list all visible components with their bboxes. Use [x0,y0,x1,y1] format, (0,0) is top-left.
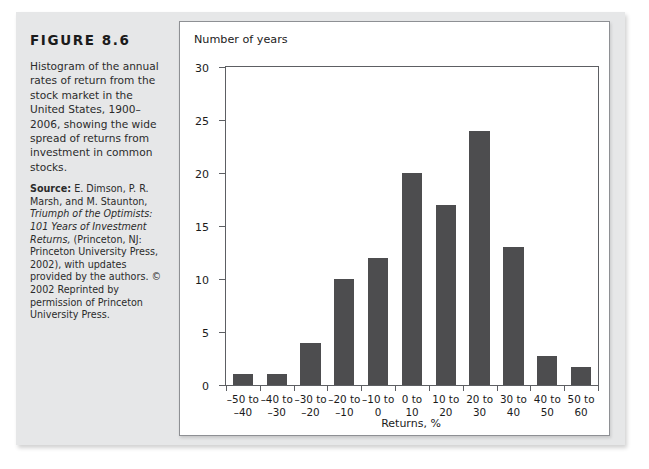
x-axis-tick [598,385,599,391]
y-axis-tick-label: 10 [195,274,209,287]
x-axis-tick-label: –10 to0 [362,393,394,419]
y-axis-tick: 10 [219,279,226,280]
x-axis-tick-label-line: 50 to [568,393,595,406]
x-axis-tick [564,385,565,391]
chart-y-axis-title: Number of years [194,33,288,46]
y-axis-tick: 0 [219,385,226,386]
figure-panel: FIGURE 8.6 Histogram of the annual rates… [16,12,625,445]
x-axis-tick-label: 0 to10 [402,393,422,419]
y-axis-tick-label: 25 [195,115,209,128]
x-axis-tick [530,385,531,391]
y-axis-tick-label: 5 [202,327,209,340]
x-axis-tick [361,385,362,391]
y-axis-tick-label: 0 [202,380,209,393]
x-axis-tick-label: –50 to–40 [227,393,259,419]
x-axis-tick-label: 40 to50 [534,393,561,419]
x-axis-tick [327,385,328,391]
x-axis-tick [294,385,295,391]
source-publisher: (Princeton, NJ: Princeton University Pre… [30,234,161,321]
y-axis-tick: 20 [219,173,226,174]
x-axis-tick-label: 30 to40 [500,393,527,419]
bar [436,205,456,385]
x-axis-tick-label-line: 0 to [402,393,422,406]
figure-number-label: FIGURE 8.6 [30,32,170,48]
x-axis-tick [260,385,261,391]
x-axis-title: Returns, % [225,417,597,430]
x-axis-tick-label-line: –50 to [227,393,259,406]
x-axis-tick-label-line: –40 to [261,393,293,406]
source-label: Source: [30,183,71,194]
x-axis-tick-label: 50 to60 [568,393,595,419]
bar [469,131,489,385]
bar [537,356,557,385]
x-axis-tick [497,385,498,391]
bar [334,279,354,385]
x-axis-tick-label: 10 to20 [432,393,459,419]
figure-caption-column: FIGURE 8.6 Histogram of the annual rates… [30,26,170,430]
bar [402,173,422,385]
y-axis-tick: 30 [219,67,226,68]
y-axis-tick: 15 [219,226,226,227]
figure-source-block: Source: E. Dimson, P. R. Marsh, and M. S… [30,183,170,322]
x-axis-tick-label: 20 to30 [466,393,493,419]
bar [267,374,287,385]
x-axis-tick-label-line: –10 to [362,393,394,406]
x-axis-tick-label-line: 20 to [466,393,493,406]
bar [233,374,253,385]
y-axis-tick-label: 30 [195,62,209,75]
bar [503,247,523,385]
x-axis-tick-label: –30 to–20 [294,393,326,419]
y-axis-tick-label: 20 [195,168,209,181]
chart-card: Number of years 051015202530 –50 to–40–4… [179,21,610,436]
y-axis-tick-label: 15 [195,221,209,234]
x-axis-tick [395,385,396,391]
x-axis-tick [429,385,430,391]
plot-area: 051015202530 –50 to–40–40 to–30–30 to–20… [225,66,599,386]
x-axis-tick-label: –20 to–10 [328,393,360,419]
bars-layer [226,67,598,385]
x-axis-tick [226,385,227,391]
bar [368,258,388,385]
x-axis-tick-label: –40 to–30 [261,393,293,419]
x-axis-tick-label-line: 30 to [500,393,527,406]
y-axis-tick: 5 [219,332,226,333]
x-axis-tick-label-line: 40 to [534,393,561,406]
figure-caption-text: Histogram of the annual rates of return … [30,59,170,174]
x-axis-tick-label-line: –30 to [294,393,326,406]
bar [300,343,320,385]
x-axis-tick-label-line: –20 to [328,393,360,406]
bar [571,367,591,385]
x-axis-tick [463,385,464,391]
x-axis-tick-label-line: 10 to [432,393,459,406]
y-axis-tick: 25 [219,120,226,121]
